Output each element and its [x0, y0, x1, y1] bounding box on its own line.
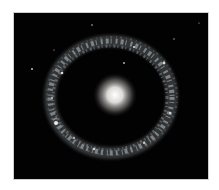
galaxy-svg [14, 13, 209, 180]
galaxy-image [13, 12, 209, 180]
galaxy-core [93, 73, 137, 117]
